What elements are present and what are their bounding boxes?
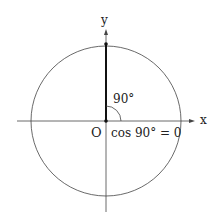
origin-point: [104, 119, 108, 123]
unit-circle-diagram: 90° O cos 90° = 0 x y: [0, 0, 219, 224]
y-axis-label: y: [100, 13, 108, 27]
y-axis-arrow-icon: [104, 29, 108, 35]
x-axis-arrow-icon: [189, 119, 195, 123]
point-on-circle: [104, 42, 108, 46]
angle-arc: [106, 106, 121, 121]
angle-label: 90°: [113, 92, 134, 106]
equation-label: cos 90° = 0: [111, 126, 182, 140]
origin-label: O: [91, 125, 102, 140]
x-axis-label: x: [200, 113, 207, 127]
